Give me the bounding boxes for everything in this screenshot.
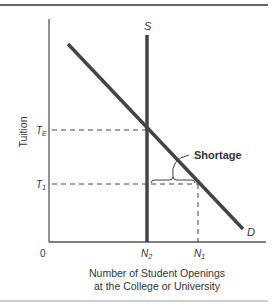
- x-axis-title-line1: Number of Student Openings: [89, 267, 225, 279]
- chart-svg: Shortage S D TE T1 0 N2 N1 Tuition Numbe…: [0, 0, 278, 306]
- shortage-label: Shortage: [194, 149, 242, 161]
- x-tick-n2: N2: [141, 248, 152, 260]
- y-tick-te: TE: [36, 125, 47, 137]
- shortage-brace: [151, 177, 195, 183]
- demand-line: [68, 44, 243, 229]
- x-axis-title-line2: at the College or University: [94, 280, 221, 292]
- y-tick-t1: T1: [36, 179, 46, 191]
- x-tick-origin: 0: [40, 248, 46, 259]
- x-tick-n1: N1: [194, 248, 205, 260]
- demand-label: D: [247, 226, 255, 238]
- y-axis-title: Tuition: [17, 116, 29, 147]
- supply-label: S: [144, 20, 152, 32]
